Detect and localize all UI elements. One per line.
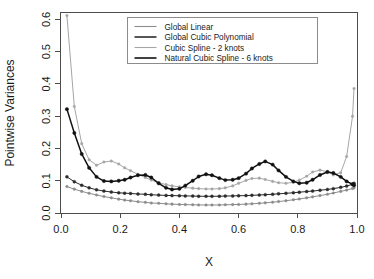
data-point (298, 198, 301, 201)
data-point (178, 194, 181, 197)
data-point (353, 87, 356, 90)
data-point (284, 192, 287, 195)
y-tick-label: 0.6 (40, 12, 52, 27)
data-point (339, 175, 342, 178)
y-tick-label: 0.1 (40, 173, 52, 188)
data-point (250, 194, 253, 197)
data-point (123, 167, 126, 170)
data-point (339, 186, 342, 189)
data-point (271, 193, 274, 196)
data-point (165, 183, 168, 186)
data-point (150, 176, 153, 179)
data-point (65, 107, 68, 110)
data-point (123, 199, 126, 202)
x-tick-label: 0.8 (290, 223, 305, 235)
data-point (136, 174, 139, 177)
data-point (171, 203, 174, 206)
data-point (264, 193, 267, 196)
data-point (65, 175, 68, 178)
data-point (319, 189, 322, 192)
data-point (231, 194, 234, 197)
y-tick-label: 0.0 (40, 205, 52, 220)
data-point (277, 181, 280, 184)
data-point (311, 171, 314, 174)
x-tick-label: 0.0 (53, 223, 68, 235)
data-point (305, 197, 308, 200)
data-point (157, 194, 160, 197)
data-point (73, 180, 76, 183)
data-point (218, 204, 221, 207)
data-point (197, 175, 200, 178)
data-point (88, 186, 91, 189)
data-point (271, 201, 274, 204)
data-point (171, 185, 174, 188)
data-point (117, 179, 120, 182)
data-point (165, 203, 168, 206)
x-tick-label: 0.6 (231, 223, 246, 235)
data-point (332, 171, 335, 174)
data-point (271, 180, 274, 183)
data-point (224, 195, 227, 198)
data-point (144, 201, 147, 204)
data-point (298, 182, 301, 185)
data-point (284, 175, 287, 178)
legend-label-1: Global Cubic Polynomial (165, 33, 254, 42)
data-point (95, 175, 98, 178)
data-point (95, 164, 98, 167)
data-point (88, 192, 91, 195)
data-point (184, 194, 187, 197)
data-point (95, 188, 98, 191)
data-point (244, 172, 247, 175)
data-point (298, 179, 301, 182)
data-point (218, 195, 221, 198)
data-point (170, 188, 173, 191)
data-point (95, 194, 98, 197)
data-point (245, 203, 248, 206)
data-point (80, 184, 83, 187)
data-point (258, 194, 261, 197)
data-point (205, 204, 208, 207)
data-point (136, 192, 139, 195)
data-point (319, 169, 322, 172)
data-point (345, 189, 348, 192)
data-point (73, 105, 76, 108)
data-point (285, 199, 288, 202)
data-point (251, 177, 254, 180)
data-point (345, 185, 348, 188)
data-point (123, 178, 126, 181)
chart-legend: Global LinearGlobal Cubic PolynomialCubi… (128, 18, 318, 64)
data-point (191, 187, 194, 190)
data-point (73, 188, 76, 191)
legend-label-2: Cubic Spline - 2 knots (165, 44, 245, 53)
data-point (210, 174, 213, 177)
data-point (80, 142, 83, 145)
data-point (87, 166, 90, 169)
data-point (305, 181, 308, 184)
data-point (271, 163, 274, 166)
data-point (231, 178, 234, 181)
data-point (237, 176, 240, 179)
data-point (157, 202, 160, 205)
data-point (144, 193, 147, 196)
data-point (311, 178, 314, 181)
data-point (205, 188, 208, 191)
data-point (237, 182, 240, 185)
data-point (224, 187, 227, 190)
data-point (178, 203, 181, 206)
data-point (218, 176, 221, 179)
data-point (339, 171, 342, 174)
data-point (129, 192, 132, 195)
data-point (231, 203, 234, 206)
data-point (277, 200, 280, 203)
data-point (191, 179, 194, 182)
data-point (150, 193, 153, 196)
data-point (318, 173, 321, 176)
data-point (264, 178, 267, 181)
data-point (88, 158, 91, 161)
data-point (258, 202, 261, 205)
data-point (332, 192, 335, 195)
data-point (204, 173, 207, 176)
data-point (103, 195, 106, 198)
data-point (251, 203, 254, 206)
data-point (258, 162, 261, 165)
